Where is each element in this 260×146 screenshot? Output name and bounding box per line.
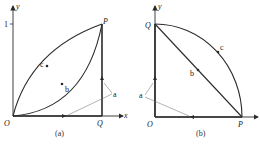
panel-b: y O Q P c b a (b) [139, 2, 258, 138]
leader-b-1 [145, 83, 153, 95]
path-b-a [13, 24, 102, 116]
path-b-label-a: b [65, 85, 69, 94]
arrow-marker-qp [100, 76, 104, 80]
panel-a: y x 1 O P Q c b a (a) [4, 2, 128, 138]
point-p-label-b: P [237, 120, 243, 129]
point-p-label-a: P [102, 17, 108, 26]
leader-a-1 [68, 94, 112, 115]
path-a-label-b: a [139, 91, 143, 100]
path-c-label-a: c [40, 60, 44, 69]
dot-c-b [217, 51, 220, 54]
arrow-marker-oq [62, 114, 66, 118]
caption-a: (a) [55, 129, 64, 138]
dot-c-a [46, 65, 49, 68]
point-q-label-b: Q [145, 21, 151, 30]
leader-a-2 [104, 83, 112, 93]
dot-b-a [61, 83, 64, 86]
path-c-label-b: c [220, 43, 224, 52]
x-axis-label-a: x [123, 111, 128, 120]
diagram-canvas: y x 1 O P Q c b a (a) y O Q P c b a [0, 0, 260, 146]
path-c-a [13, 24, 102, 116]
point-q-label-a: Q [97, 119, 103, 128]
arrow-marker-op-b [190, 115, 194, 119]
tick-label-1: 1 [4, 20, 8, 29]
origin-label-b: O [147, 120, 153, 129]
dot-b-b [197, 69, 200, 72]
caption-b: (b) [196, 129, 206, 138]
y-axis-label-a: y [15, 2, 20, 11]
origin-label-a: O [4, 119, 10, 128]
path-a-label-a: a [113, 90, 117, 99]
leader-b-2 [145, 97, 189, 116]
arrow-marker-qo-b [153, 76, 157, 80]
path-b-label-b: b [190, 69, 194, 78]
y-axis-label-b: y [157, 2, 162, 11]
